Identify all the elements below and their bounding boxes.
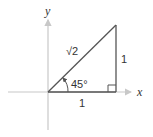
vertical-side-label: 1 [121,53,127,65]
triangle-diagram: y x √2 1 1 45° [0,0,153,137]
y-axis-label: y [44,4,51,18]
angle-label: 45° [71,78,88,90]
hypotenuse-label: √2 [66,45,78,57]
horizontal-side-label: 1 [79,97,85,109]
right-angle-marker [108,85,116,92]
x-axis-label: x [136,85,143,99]
angle-arc-icon [63,78,68,92]
